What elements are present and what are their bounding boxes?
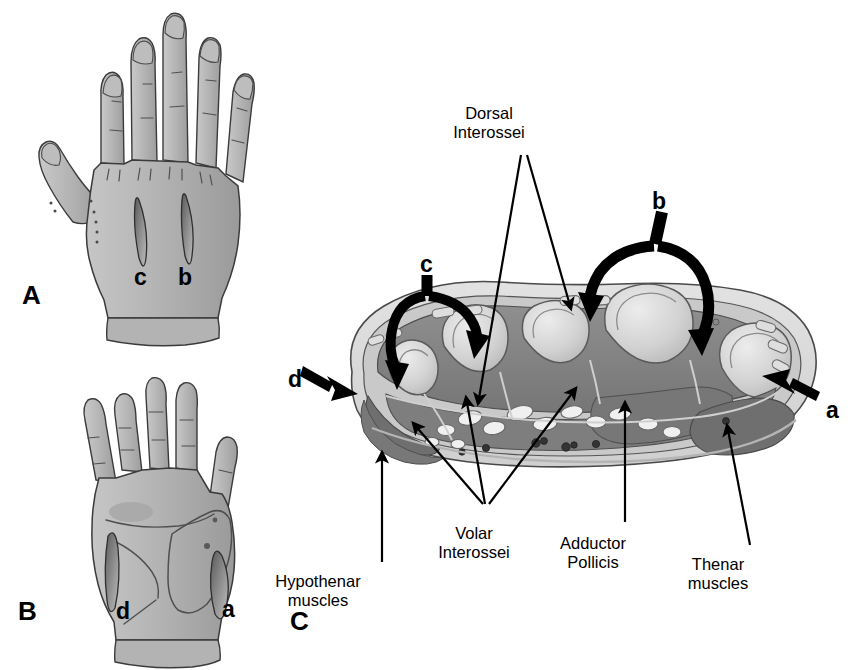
callout-dorsal-interossei: Dorsal Interossei [429, 104, 549, 143]
panel-a-dorsum [86, 160, 240, 318]
marker-b-d: d [116, 600, 130, 623]
anatomy-figure: A B C c b d a c b d a Dorsal Interossei … [0, 0, 860, 670]
panel-letter-c: C [290, 608, 309, 634]
marker-c-a: a [826, 399, 839, 422]
panel-letter-b: B [18, 598, 37, 624]
panel-a-wrist [107, 318, 220, 346]
panel-b-wrist [115, 640, 221, 668]
marker-a-c: c [134, 266, 147, 289]
marker-a-b: b [178, 266, 192, 289]
marker-c-c: c [420, 253, 433, 276]
callout-hypothenar-muscles: Hypothenar muscles [243, 572, 393, 611]
section-dorsal-vessel [713, 319, 719, 325]
panel-b-thumb-mark [204, 543, 210, 549]
panel-b-volar-hand [84, 378, 237, 668]
panel-a-dorsal-hand [39, 13, 254, 346]
panel-letter-a: A [22, 282, 41, 308]
panel-c-cross-section [300, 155, 820, 562]
panel-b-thenar-pad [109, 502, 153, 522]
marker-c-d: d [288, 368, 302, 391]
marker-b-a: a [222, 598, 235, 621]
panel-b-thumb-mark-2 [213, 518, 218, 523]
marker-c-b: b [652, 190, 666, 213]
approach-arrow-b [655, 212, 662, 244]
approach-arrow-d [300, 366, 358, 401]
callout-thenar-muscles: Thenar muscles [658, 555, 778, 594]
callout-volar-interossei: Volar Interossei [414, 524, 534, 563]
callout-adductor-pollicis: Adductor Pollicis [533, 534, 653, 573]
